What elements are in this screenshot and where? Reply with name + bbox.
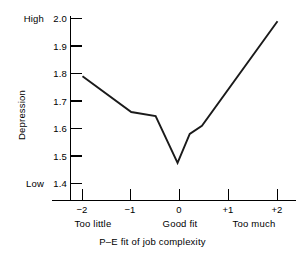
y-anchor-high-label: High xyxy=(14,14,44,24)
x-category-label-good-fit: Good fit xyxy=(140,219,220,229)
y-tick-label-1-9: 1.9 xyxy=(41,42,67,52)
x-tick-label-minus-2: −2 xyxy=(67,205,97,215)
x-category-label-too-little: Too little xyxy=(53,219,133,229)
y-tick-label-1-5: 1.5 xyxy=(41,152,67,162)
axes-group xyxy=(52,16,296,201)
chart-container: High Low 2.0 1.9 1.8 1.7 1.6 1.5 1.4 Dep… xyxy=(0,0,305,254)
x-category-label-too-much: Too much xyxy=(214,219,294,229)
y-axis-title: Depression xyxy=(16,90,27,140)
y-axis-ticks xyxy=(71,19,83,184)
x-tick-label-zero: 0 xyxy=(164,205,194,215)
y-tick-label-1-8: 1.8 xyxy=(41,69,67,79)
y-tick-label-1-6: 1.6 xyxy=(41,124,67,134)
x-tick-label-minus-1: −1 xyxy=(115,205,145,215)
data-series-depression xyxy=(83,21,278,163)
y-tick-label-1-7: 1.7 xyxy=(41,97,67,107)
x-tick-label-plus-1: +1 xyxy=(213,205,243,215)
x-tick-label-plus-2: +2 xyxy=(262,205,292,215)
x-axis-title: P–E fit of job complexity xyxy=(0,236,305,247)
y-tick-label-2-0: 2.0 xyxy=(41,14,67,24)
x-axis-ticks xyxy=(83,189,278,201)
y-tick-label-1-4: 1.4 xyxy=(41,179,67,189)
y-anchor-low-label: Low xyxy=(14,179,44,189)
